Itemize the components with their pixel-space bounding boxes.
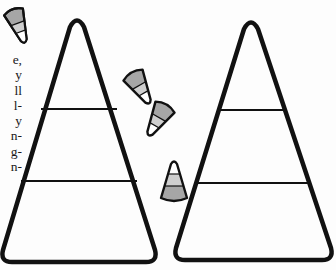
small-candy-icon <box>3 6 34 46</box>
small-candy-icon <box>161 162 187 202</box>
right-cone-outline <box>175 23 331 261</box>
small-candy-icon <box>122 67 159 109</box>
candy-corn-illustration <box>0 0 336 270</box>
small-candy-icon <box>139 99 176 141</box>
left-cone-outline <box>2 21 155 263</box>
worksheet-page: e, y ll l- y n- g- n- <box>0 0 336 270</box>
